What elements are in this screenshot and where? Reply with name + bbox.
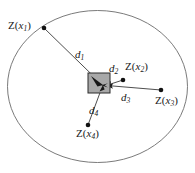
sample-label-z3-suffix: ) bbox=[174, 94, 178, 106]
sample-label-z3: Z(x3) bbox=[155, 95, 178, 107]
distance-label-d3-sub: 3 bbox=[127, 96, 131, 105]
sample-label-z1-prefix: Z( bbox=[8, 19, 19, 31]
sample-label-z1: Z(x1) bbox=[8, 20, 31, 32]
distance-label-d3: d3 bbox=[121, 92, 130, 104]
sample-label-z4-prefix: Z( bbox=[76, 127, 87, 139]
sample-point-z1 bbox=[42, 26, 47, 31]
distance-label-d4-sub: 4 bbox=[95, 109, 99, 118]
sample-label-z3-prefix: Z( bbox=[155, 94, 166, 106]
sample-point-z3 bbox=[159, 88, 164, 93]
distance-weighting-diagram: Z(x1) Z(x2) Z(x3) Z(x4) d1 d2 d3 d4 bbox=[0, 0, 195, 173]
sample-label-z2-prefix: Z( bbox=[125, 60, 136, 72]
sample-label-z4: Z(x4) bbox=[76, 128, 99, 140]
sample-label-z2-suffix: ) bbox=[144, 60, 148, 72]
distance-label-d2: d2 bbox=[109, 63, 118, 75]
distance-line-d3 bbox=[107, 86, 161, 91]
distance-label-d4: d4 bbox=[89, 105, 98, 117]
sample-label-z1-suffix: ) bbox=[27, 19, 31, 31]
distance-label-d2-sub: 2 bbox=[115, 67, 119, 76]
sample-label-z2: Z(x2) bbox=[125, 61, 148, 73]
sample-label-z4-suffix: ) bbox=[95, 127, 99, 139]
distance-label-d1: d1 bbox=[75, 49, 84, 61]
distance-label-d1-sub: 1 bbox=[81, 53, 85, 62]
sample-point-z2 bbox=[121, 78, 126, 83]
